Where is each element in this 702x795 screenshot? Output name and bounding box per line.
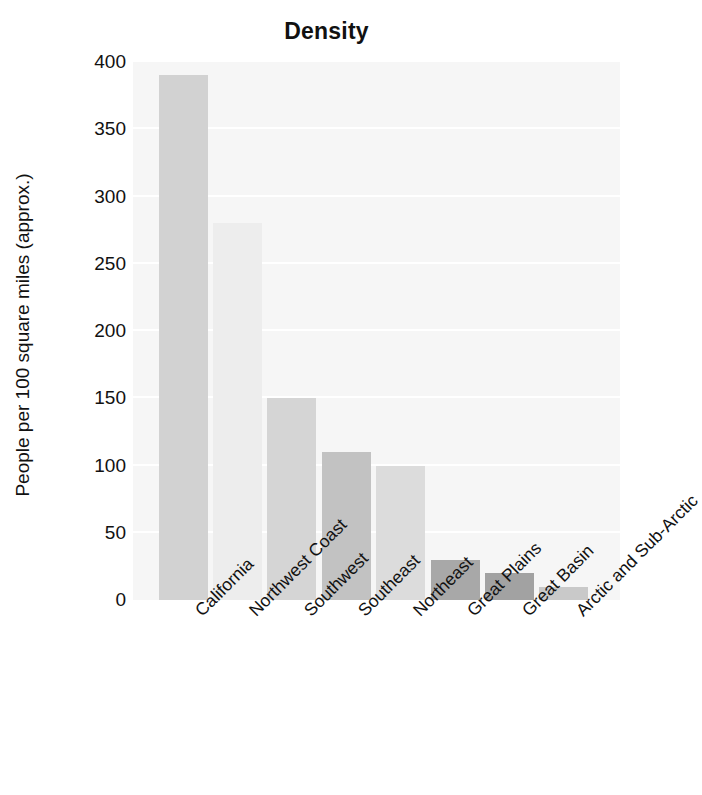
- y-tick-label: 150: [74, 388, 126, 407]
- chart-title: Density: [0, 18, 653, 45]
- y-tick-label: 100: [74, 456, 126, 475]
- y-tick-label: 400: [74, 52, 126, 71]
- y-axis-tick-labels: 050100150200250300350400: [70, 62, 126, 600]
- y-tick-label: 200: [74, 321, 126, 340]
- y-tick-label: 0: [74, 590, 126, 609]
- y-tick-label: 250: [74, 254, 126, 273]
- y-tick-label: 300: [74, 187, 126, 206]
- bars-layer: [133, 62, 620, 600]
- x-axis-tick-labels: CaliforniaNorthwest CoastSouthwestSouthe…: [133, 602, 620, 792]
- plot-area: [133, 62, 620, 600]
- bar: [159, 75, 208, 600]
- y-tick-label: 50: [74, 523, 126, 542]
- y-tick-label: 350: [74, 119, 126, 138]
- y-axis-label: People per 100 square miles (approx.): [8, 70, 38, 600]
- y-axis-label-text: People per 100 square miles (approx.): [12, 173, 34, 496]
- bar: [213, 223, 262, 600]
